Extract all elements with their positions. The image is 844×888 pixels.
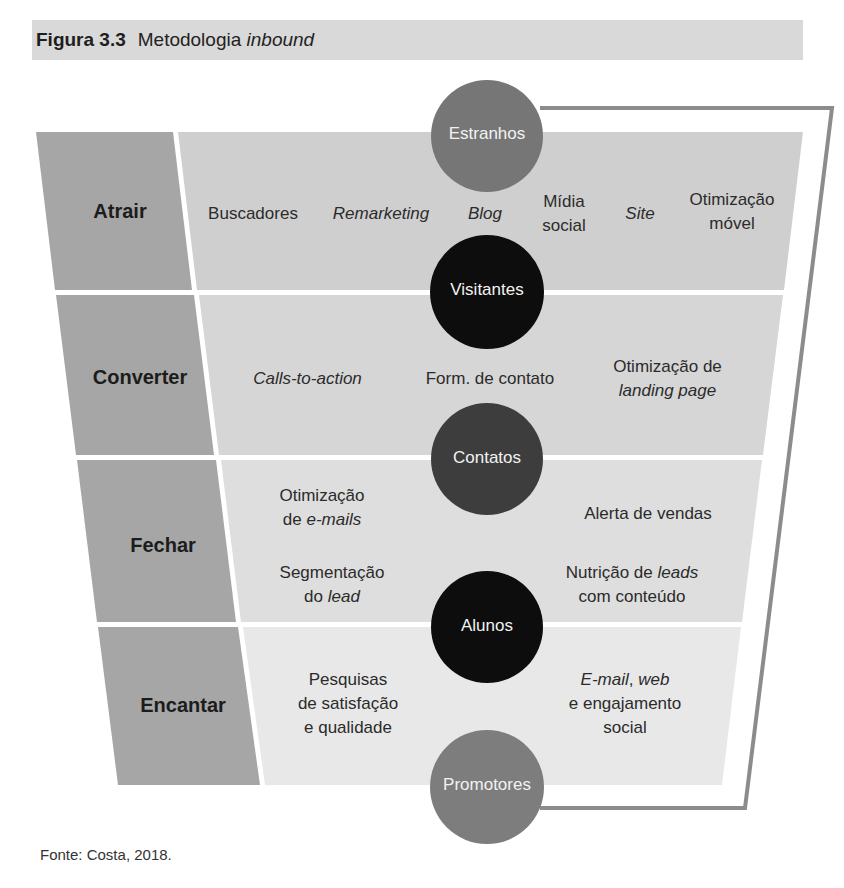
tool-email-web-engajamento: E-mail, webe engajamentosocial [555,668,695,740]
inbound-funnel-diagram [0,0,844,888]
stage-label-atrair: Atrair [60,200,180,223]
tool-landing-page-line1: Otimização de [613,357,722,376]
tool-otimizacao-emails-prefix: de [283,510,307,529]
tool-landing-page-line2: landing page [619,381,716,400]
tool-pesquisas-line2: de satisfação [298,694,398,713]
tool-otimizacao-movel-line1: Otimização [689,190,774,209]
tool-calls-to-action: Calls-to-action [235,367,380,391]
tool-pesquisas-line3: e qualidade [304,718,392,737]
tool-nutricao-prefix: Nutrição de [566,563,658,582]
audience-label-contatos: Contatos [430,448,544,468]
tool-engajamento-line3: social [603,718,646,737]
tool-email-comma: , [629,670,638,689]
tool-otimizacao-movel-line2: móvel [709,214,754,233]
tool-midia-social-line1: Mídia [543,192,585,211]
tool-nutricao-line2: com conteúdo [579,587,686,606]
audience-label-estranhos: Estranhos [430,124,544,144]
tool-form-contato: Form. de contato [410,367,570,391]
figure-source: Fonte: Costa, 2018. [40,846,172,863]
tool-blog-text: Blog [468,204,502,223]
tool-calls-to-action-text: Calls-to-action [253,369,362,388]
tool-nutricao-leads: Nutrição de leadscom conteúdo [557,561,707,609]
tool-segmentacao-line1: Segmentação [280,563,385,582]
tool-segmentacao-italic: lead [328,587,360,606]
tool-remarketing: Remarketing [322,202,440,226]
tool-landing-page: Otimização delanding page [595,355,740,403]
tool-pesquisas-line1: Pesquisas [309,670,387,689]
tool-blog: Blog [455,202,515,226]
tool-otimizacao-emails: Otimizaçãode e-mails [262,484,382,532]
tool-midia-social: Mídiasocial [530,190,598,238]
stage-label-converter: Converter [75,366,205,389]
tool-midia-social-line2: social [542,216,585,235]
tool-otimizacao-movel: Otimizaçãomóvel [675,188,789,236]
tool-web-italic: web [638,670,669,689]
audience-label-visitantes: Visitantes [430,280,544,300]
tool-segmentacao-lead: Segmentaçãodo lead [272,561,392,609]
tool-site-text: Site [625,204,654,223]
stage-label-fechar: Fechar [103,534,223,557]
tool-otimizacao-emails-line1: Otimização [279,486,364,505]
tool-alerta-vendas: Alerta de vendas [568,502,728,526]
tool-pesquisas-satisfacao: Pesquisasde satisfaçãoe qualidade [283,668,413,740]
tool-site: Site [615,202,665,226]
tool-email-italic: E-mail [581,670,629,689]
tool-segmentacao-prefix: do [304,587,328,606]
tool-engajamento-line2: e engajamento [569,694,681,713]
tool-buscadores: Buscadores [198,202,308,226]
tool-otimizacao-emails-italic: e-mails [306,510,361,529]
stage-label-encantar: Encantar [118,694,248,717]
audience-label-promotores: Promotores [428,775,546,795]
audience-label-alunos: Alunos [430,616,544,636]
tool-nutricao-italic: leads [658,563,699,582]
tool-remarketing-text: Remarketing [333,204,429,223]
